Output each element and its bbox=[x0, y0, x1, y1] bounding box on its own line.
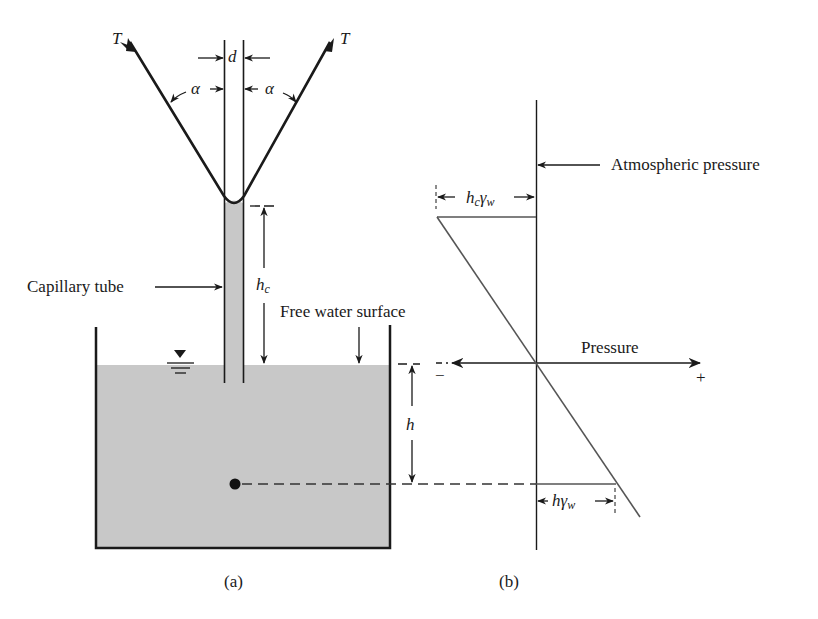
atmospheric-pressure-label: Atmospheric pressure bbox=[611, 156, 760, 173]
caption-b: (b) bbox=[499, 573, 519, 590]
surface-tension-vectors bbox=[130, 42, 330, 203]
tension-label-right: T bbox=[340, 30, 349, 47]
angle-label-left: α bbox=[191, 80, 200, 97]
angle-arrow-left-outer bbox=[171, 92, 186, 102]
angle-arrow-right-outer bbox=[283, 93, 296, 102]
caption-a: (a) bbox=[224, 573, 243, 590]
free-water-surface-label: Free water surface bbox=[280, 303, 406, 320]
capillary-tube bbox=[225, 40, 244, 383]
pressure-axis-label: Pressure bbox=[581, 339, 639, 356]
tube-water-column bbox=[225, 201, 243, 384]
angle-label-right: α bbox=[265, 80, 274, 97]
bottom-dimension-label: hγw bbox=[552, 492, 575, 511]
tank-water bbox=[96, 365, 389, 548]
capillary-diagram bbox=[0, 0, 818, 619]
tension-arrowhead-left bbox=[126, 38, 136, 52]
negative-sign: − bbox=[435, 367, 445, 384]
capillary-tube-label: Capillary tube bbox=[27, 278, 124, 295]
depth-label: h bbox=[406, 416, 415, 433]
pressure-distribution-line bbox=[437, 217, 640, 517]
diameter-label: d bbox=[228, 48, 237, 65]
top-dimension-label: hcγw bbox=[466, 189, 495, 208]
tension-arrowhead-right bbox=[324, 38, 334, 52]
capillary-rise-label: hc bbox=[256, 276, 270, 295]
tension-label-left: T bbox=[112, 30, 121, 47]
positive-sign: + bbox=[696, 369, 706, 386]
point-of-interest bbox=[230, 479, 241, 490]
